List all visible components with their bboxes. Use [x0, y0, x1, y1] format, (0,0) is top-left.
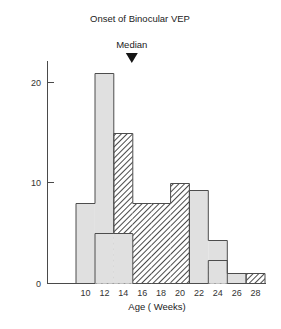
chart-container: Onset of Binocular VEP Median 20 10 0 10… — [0, 0, 281, 329]
bar-17-19 — [152, 204, 171, 284]
median-label: Median — [116, 39, 147, 50]
bar-21-23 — [189, 191, 208, 284]
x-axis-ticks: 10121416182022242628 — [80, 288, 260, 298]
chart-title: Onset of Binocular VEP — [90, 13, 190, 24]
x-tick-label-26: 26 — [232, 288, 242, 298]
x-tick-label-10: 10 — [80, 288, 90, 298]
x-tick-label-18: 18 — [156, 288, 166, 298]
bar-23-25 — [208, 241, 227, 284]
x-axis-title: Age ( Weeks) — [128, 301, 185, 312]
bar-9-11 — [76, 204, 95, 284]
x-tick-label-20: 20 — [175, 288, 185, 298]
x-tick-label-22: 22 — [194, 288, 204, 298]
bar-11-13 — [95, 74, 114, 284]
bar-19-21 — [171, 184, 190, 284]
bar-13-15 — [114, 234, 133, 284]
bar-25-27 — [227, 274, 246, 284]
median-down-triangle-icon — [126, 53, 138, 63]
y-tick-label-10: 10 — [31, 178, 41, 188]
y-axis-ticks: 20 10 0 — [31, 78, 54, 289]
bar-27-29 — [246, 274, 265, 284]
x-tick-label-12: 12 — [99, 288, 109, 298]
x-tick-label-14: 14 — [118, 288, 128, 298]
x-tick-label-28: 28 — [251, 288, 261, 298]
y-tick-label-20: 20 — [31, 78, 41, 88]
x-tick-label-24: 24 — [213, 288, 223, 298]
histogram-chart: Onset of Binocular VEP Median 20 10 0 10… — [0, 0, 281, 329]
x-tick-label-16: 16 — [137, 288, 147, 298]
bar-15-17 — [133, 204, 152, 284]
y-tick-label-0: 0 — [36, 279, 41, 289]
